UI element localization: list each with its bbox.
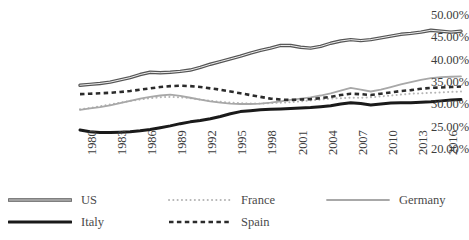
legend-swatch-us-icon [8,194,72,206]
x-axis-tick-label: 2001 [296,130,311,155]
y-axis-tick-label: 50.00% [411,8,469,23]
x-axis-tick-label: 1992 [205,130,220,155]
x-axis-tick-label: 2010 [386,130,401,155]
x-axis-tick-label: 1998 [265,130,280,155]
series-line [80,91,461,109]
x-axis-tick-label: 1986 [145,130,160,155]
x-axis-tick-label: 2016 [446,130,461,155]
x-axis-tick-label: 1989 [175,130,190,155]
x-axis-tick-label: 2013 [416,130,431,155]
line-chart: 50.00%45.00%40.00%35.00%30.00%25.00%20.0… [0,0,469,240]
series-spain [80,86,461,100]
legend-swatch-france-icon [168,194,232,206]
series-line-outer [80,30,461,85]
series-germany [80,76,461,110]
x-axis-tick-label: 2004 [326,130,341,155]
legend-swatch-spain-icon [168,216,232,228]
x-axis-tick-label: 1995 [235,130,250,155]
legend-label: France [241,193,275,208]
y-axis-tick-label: 45.00% [411,30,469,45]
x-axis-tick-label: 1980 [85,130,100,155]
legend-swatch-italy-icon [8,216,72,228]
legend-label: US [81,193,97,208]
legend-label: Italy [81,215,104,230]
legend-item-germany[interactable]: Germany [326,190,446,210]
legend-item-italy[interactable]: Italy [8,212,104,232]
legend-item-france[interactable]: France [168,190,275,210]
series-france [80,91,461,109]
series-italy [80,100,461,133]
series-us [80,30,461,85]
legend-swatch-germany-icon [326,194,390,206]
y-axis-tick-label: 40.00% [411,53,469,68]
chart-legend: USFranceGermanyItalySpain [8,190,463,236]
y-axis-tick-label: 30.00% [411,97,469,112]
legend-item-us[interactable]: US [8,190,97,210]
legend-label: Spain [241,215,269,230]
series-layer [80,30,461,132]
x-axis-tick-label: 2007 [356,130,371,155]
y-axis-tick-label: 35.00% [411,75,469,90]
series-line [80,100,461,133]
series-line [80,76,461,110]
legend-label: Germany [399,193,446,208]
series-line [80,86,461,100]
legend-item-spain[interactable]: Spain [168,212,269,232]
x-axis-tick-label: 1983 [115,130,130,155]
